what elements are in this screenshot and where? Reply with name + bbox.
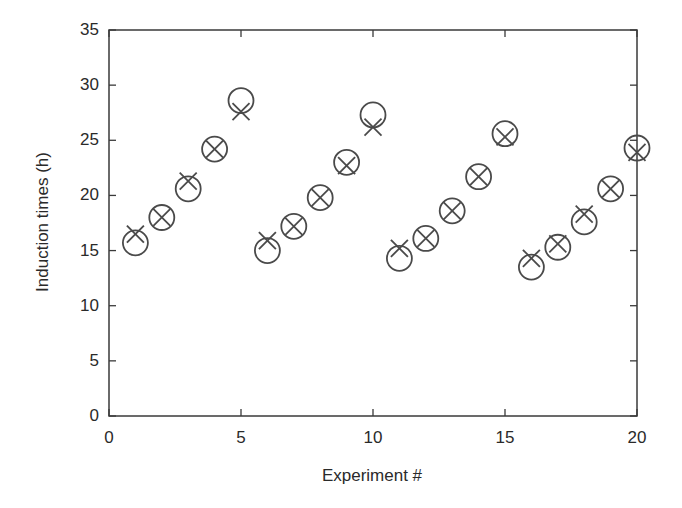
y-tick-label: 30 — [80, 75, 99, 95]
x-tick-label: 0 — [104, 428, 113, 448]
x-tick-label: 5 — [236, 428, 245, 448]
scatter-chart: Induction times (h) Experiment # 0510152… — [0, 0, 682, 508]
x-axis-label: Experiment # — [322, 466, 422, 486]
y-tick-label: 5 — [90, 351, 99, 371]
x-tick-label: 15 — [496, 428, 515, 448]
y-tick-label: 20 — [80, 185, 99, 205]
y-tick-label: 10 — [80, 296, 99, 316]
plot-frame — [109, 30, 637, 416]
y-tick-label: 25 — [80, 130, 99, 150]
x-tick-label: 20 — [628, 428, 647, 448]
circle-marker — [493, 121, 518, 146]
circle-marker — [361, 102, 386, 127]
y-tick-label: 15 — [80, 241, 99, 261]
y-tick-label: 0 — [90, 406, 99, 426]
plot-area — [0, 0, 682, 508]
circle-marker — [545, 235, 570, 260]
y-axis-label: Induction times (h) — [33, 152, 53, 292]
circle-marker — [334, 150, 359, 175]
y-tick-label: 35 — [80, 20, 99, 40]
circle-marker — [229, 88, 254, 113]
x-tick-label: 10 — [364, 428, 383, 448]
